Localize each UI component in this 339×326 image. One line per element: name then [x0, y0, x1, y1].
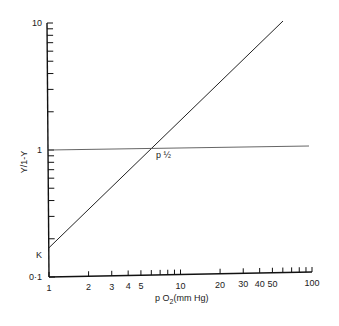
x-tick-label: 3: [109, 282, 114, 292]
x-tick-label: 5: [138, 281, 143, 291]
x-axis: 123451020304050100: [46, 267, 319, 293]
hill-line: [49, 21, 283, 248]
y-tick-label: 1: [37, 145, 42, 155]
x-tick-label: 20: [215, 280, 225, 290]
k-label: K: [36, 250, 42, 260]
y-tick-label: 0·1: [29, 272, 42, 282]
hill-plot-chart: 0·1110 123451020304050100 Y/1-Y p O2(mm …: [0, 0, 339, 326]
p-half-label: p ½: [156, 150, 172, 160]
x-tick-label: 100: [304, 278, 319, 288]
x-tick-label: 2: [86, 282, 91, 292]
x-tick-label: 4: [126, 281, 131, 291]
half-saturation-line: [49, 146, 309, 150]
x-tick-label: 30: [238, 279, 248, 289]
x-tick-label: 40: [255, 279, 265, 289]
x-tick-label: 50: [267, 279, 277, 289]
y-axis-title: Y/1-Y: [19, 151, 29, 174]
x-tick-label: 10: [175, 281, 185, 291]
x-axis-title: p O2(mm Hg): [155, 293, 208, 305]
x-tick-label: 1: [46, 283, 51, 293]
series-lines: [49, 21, 309, 248]
y-tick-label: 10: [32, 18, 42, 28]
